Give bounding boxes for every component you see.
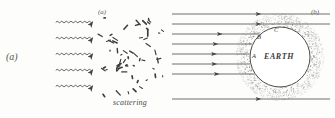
- scatter-particle: [144, 38, 148, 40]
- scatter-particle: [130, 51, 134, 53]
- scatter-particle: [128, 92, 129, 94]
- figure-label: (a): [6, 52, 18, 62]
- panel-a-tag: (a): [98, 9, 106, 16]
- scattering-particle-field: [98, 18, 163, 97]
- earth-label: EARTH: [264, 53, 294, 61]
- scatter-particle: [126, 65, 127, 66]
- scatter-particle: [146, 80, 147, 81]
- point-label-c: C: [274, 26, 278, 33]
- scatter-particle: [113, 37, 118, 40]
- scatter-particle: [123, 60, 125, 63]
- wave-arrow: [56, 53, 93, 55]
- scatter-particle: [133, 89, 136, 92]
- panel-b-tag: (b): [311, 9, 319, 16]
- scatter-particle: [136, 24, 140, 25]
- scatter-particle: [98, 34, 102, 36]
- scatter-particle: [142, 60, 145, 61]
- scatter-particle: [137, 81, 138, 83]
- scatter-particle: [124, 25, 128, 29]
- scatter-particle: [143, 21, 147, 24]
- scatter-particle: [161, 30, 163, 32]
- point-label-a: A: [252, 52, 256, 59]
- scatter-particle: [155, 50, 156, 55]
- incoming-wave-arrows: [56, 21, 93, 87]
- wave-arrow: [56, 69, 93, 71]
- wave-arrow: [56, 21, 93, 23]
- scatter-particle: [123, 51, 127, 54]
- scatter-particle: [146, 43, 150, 46]
- scatter-particle: [140, 58, 141, 60]
- wave-arrow: [56, 85, 93, 87]
- scatter-particle: [134, 54, 137, 57]
- scatter-particle: [110, 34, 112, 35]
- scatter-particle: [153, 69, 154, 70]
- wave-arrow: [56, 37, 93, 39]
- scatter-particle: [147, 22, 149, 24]
- point-label-b: B: [257, 33, 261, 40]
- scatter-particle: [104, 67, 106, 68]
- scattering-caption: scattering: [113, 99, 147, 107]
- scatter-particle: [140, 87, 143, 89]
- scatter-particle: [116, 91, 120, 95]
- scatter-particle: [103, 94, 105, 96]
- figure-container: (a) (a) scattering (b) EARTH A B C: [0, 0, 335, 118]
